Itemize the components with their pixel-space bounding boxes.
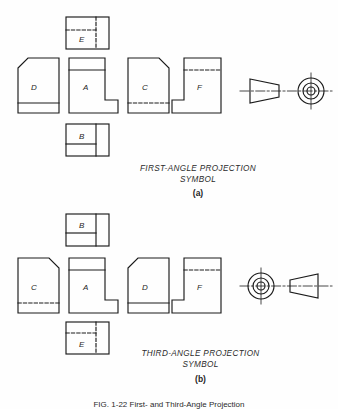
first-angle-title: FIRST-ANGLE PROJECTION SYMBOL <box>118 163 278 185</box>
first-angle-title-line2: SYMBOL <box>180 175 216 184</box>
view-C-left: C <box>18 258 59 313</box>
figure-caption: FIG. 1-22 First- and Third-Angle Project… <box>0 400 338 409</box>
third-angle-title: THIRD-ANGLE PROJECTION SYMBOL <box>118 348 283 370</box>
view-B-top: B <box>66 214 109 246</box>
figure-page: E D A <box>0 0 338 409</box>
view-B-bottom: B <box>66 124 109 156</box>
third-angle-title-line2: SYMBOL <box>182 360 218 369</box>
svg-text:C: C <box>142 83 148 92</box>
view-A-center: A <box>69 58 118 113</box>
svg-text:D: D <box>142 283 148 292</box>
svg-text:C: C <box>31 283 37 292</box>
subcaption-a: (a) <box>118 188 278 198</box>
svg-text:E: E <box>79 340 85 349</box>
svg-text:B: B <box>79 221 85 230</box>
svg-text:B: B <box>79 132 85 141</box>
view-A-center: A <box>69 258 118 313</box>
svg-text:A: A <box>82 83 88 92</box>
view-D-left: D <box>18 58 59 113</box>
subcaption-b: (b) <box>118 374 283 384</box>
view-F-far-right: F <box>172 58 221 113</box>
panel-first-angle: E D A <box>0 0 338 200</box>
first-angle-projection-symbol <box>240 73 332 109</box>
panel-third-angle: B C A <box>0 200 338 390</box>
svg-text:E: E <box>79 35 85 44</box>
view-F-far-right: F <box>172 258 221 313</box>
first-angle-title-line1: FIRST-ANGLE PROJECTION <box>140 164 256 173</box>
third-angle-projection-symbol <box>240 268 332 304</box>
svg-text:F: F <box>197 83 203 92</box>
view-D-right: D <box>128 258 169 313</box>
svg-text:F: F <box>197 283 203 292</box>
svg-text:A: A <box>82 283 88 292</box>
third-angle-title-line1: THIRD-ANGLE PROJECTION <box>141 349 259 358</box>
view-E-top: E <box>66 17 109 49</box>
view-E-bottom: E <box>66 322 109 354</box>
view-C-right: C <box>128 58 169 113</box>
svg-text:D: D <box>31 83 37 92</box>
